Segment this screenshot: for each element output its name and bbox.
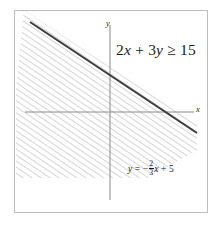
inequality-rhs: 15 [180, 41, 196, 58]
inequality-coeff-y: 3 [148, 41, 156, 58]
inequality-var-y: y [156, 41, 163, 58]
x-axis-label: x [196, 105, 200, 114]
equation-intercept: 5 [169, 164, 174, 174]
equation-slope-denominator: 3 [149, 169, 154, 177]
graph-canvas [0, 0, 220, 230]
equation-slope-fraction: 23 [149, 160, 154, 177]
equation-minus-sign: − [143, 164, 148, 174]
equation-equals-sign: = [135, 164, 140, 174]
equation-plus-sign: + [161, 164, 166, 174]
equation-var-x: x [154, 164, 158, 174]
inequality-relation-symbol: ≥ [167, 41, 176, 58]
y-axis-label: y [106, 19, 110, 28]
inequality-coeff-x: 2x [116, 41, 131, 58]
inequality-plus-sign: + [135, 41, 144, 58]
equation-var-y: y [128, 164, 132, 174]
line-equation-annotation: y = −23x + 5 [128, 160, 174, 177]
inequality-graph-figure: y x 2x + 3y ≥ 15 y = −23x + 5 [0, 0, 220, 230]
inequality-annotation: 2x + 3y ≥ 15 [116, 42, 196, 58]
